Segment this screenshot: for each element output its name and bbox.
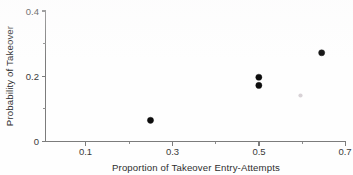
y-tick-label-0: 0	[34, 136, 39, 147]
scan-artifact-speck	[298, 93, 302, 97]
x-axis-title: Proportion of Takeover Entry-Attempts	[112, 162, 280, 173]
y-axis-major-ticks	[42, 11, 46, 142]
data-point	[256, 74, 262, 80]
x-tick-label-0.3: 0.3	[166, 146, 179, 157]
data-point-group	[147, 50, 324, 124]
scatter-plot-figure: 0.4 0.2 0 0.1 0.3 0.5 0.7 Proportion of …	[0, 0, 353, 175]
x-tick-label-0.7: 0.7	[338, 146, 351, 157]
y-tick-label-0.2: 0.2	[26, 71, 39, 82]
x-tick-label-0.5: 0.5	[252, 146, 265, 157]
data-point	[319, 50, 325, 56]
plot-canvas: 0.4 0.2 0 0.1 0.3 0.5 0.7 Proportion of …	[0, 0, 353, 175]
y-tick-label-0.4: 0.4	[26, 6, 39, 17]
y-axis-title: Probability of Takeover	[4, 25, 15, 126]
data-point	[256, 82, 262, 88]
x-tick-label-0.1: 0.1	[79, 146, 92, 157]
data-point	[147, 117, 153, 123]
